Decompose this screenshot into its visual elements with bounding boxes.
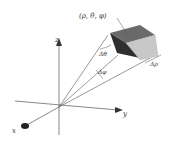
x-axis	[25, 107, 59, 126]
volume-element	[110, 25, 158, 60]
y-axis-arrow-icon	[115, 107, 123, 113]
x-axis-label: x	[12, 127, 16, 135]
x-axis-arrow-icon	[21, 123, 29, 129]
delta-phi-label: Δφ	[97, 68, 107, 76]
y-axis-label: y	[122, 110, 128, 118]
delta-theta-label: Δθ	[98, 50, 107, 57]
spherical-volume-diagram: z y x (ρ, θ, φ) Δθ Δφ Δρ	[0, 0, 175, 143]
point-label: (ρ, θ, φ)	[79, 12, 107, 20]
delta-rho-label: Δρ	[149, 60, 158, 68]
delta-theta-arc	[100, 45, 111, 49]
z-axis-label: z	[54, 36, 59, 44]
y-axis	[15, 101, 118, 110]
